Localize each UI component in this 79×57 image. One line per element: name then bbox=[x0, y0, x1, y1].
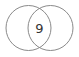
intersection-count: 9 bbox=[35, 22, 43, 35]
